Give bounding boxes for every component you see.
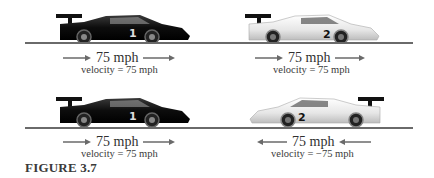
race-car-2-icon: 2 [246,93,386,127]
car2-speed-label: 75 mph [255,51,365,65]
svg-text:1: 1 [129,110,137,123]
arrow-right-icon [335,55,365,61]
car2-speed-label: 75 mph [257,135,371,149]
arrow-right-icon [63,55,91,61]
svg-text:2: 2 [323,28,331,41]
race-car-2-icon: 2 [243,10,383,44]
arrow-left-icon [339,139,371,145]
car1-speed-label: 75 mph [63,135,175,149]
race-car-1-icon: 1 [54,10,194,44]
panel-bottom: 1 2 75 mph velocity = 75 mph 75 mph [0,86,434,171]
car1-velocity: velocity = 75 mph [81,64,158,75]
arrow-right-icon [63,139,91,145]
panel-top: 1 2 75 mph velocity = 75 mph 75 mph velo… [0,0,434,85]
ground-line [25,42,413,44]
arrow-right-icon [255,55,283,61]
arrow-right-icon [143,139,175,145]
ground-line [25,127,413,129]
car2-velocity: velocity = 75 mph [273,64,350,75]
svg-text:2: 2 [298,111,306,124]
arrow-right-icon [143,55,175,61]
race-car-1-icon: 1 [54,93,194,127]
figure-caption: FIGURE 3.7 [25,160,97,176]
arrow-left-icon [257,139,287,145]
car1-velocity: velocity = 75 mph [81,148,158,159]
car1-speed-label: 75 mph [63,51,175,65]
svg-text:1: 1 [129,27,137,40]
car2-velocity: velocity = −75 mph [271,148,354,159]
